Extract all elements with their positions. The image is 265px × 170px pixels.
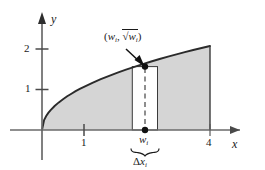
y-axis-label: y xyxy=(51,13,56,25)
y-tick-label-1: 1 xyxy=(25,83,31,94)
paren-close: ) xyxy=(138,30,142,42)
riemann-sum-figure: y x 2 1 1 4 (wi, √wi) wi Δxi xyxy=(0,0,265,170)
label-w-1: w xyxy=(108,30,115,42)
x-axis-label: x xyxy=(232,138,237,150)
x-tick-label-4: 4 xyxy=(206,137,212,148)
figure-canvas xyxy=(0,0,265,170)
point-coordinate-label: (wi, √wi) xyxy=(104,31,141,44)
delta-x-label: Δxi xyxy=(133,156,147,169)
midpoint-w-label: wi xyxy=(139,134,148,147)
x-tick-label-1: 1 xyxy=(81,137,87,148)
base-label-sub: i xyxy=(146,139,148,147)
label-comma: , xyxy=(117,30,120,42)
delta-label-sub: i xyxy=(145,161,147,169)
y-tick-label-2: 2 xyxy=(24,43,30,54)
label-w-2: w xyxy=(129,30,136,42)
radical-group: √wi xyxy=(122,29,137,42)
